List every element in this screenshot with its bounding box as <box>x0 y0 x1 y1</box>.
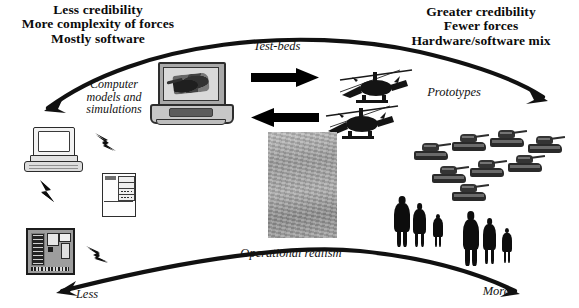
tank-icon <box>452 131 486 151</box>
tank-icon <box>452 181 486 201</box>
helicopter-icon <box>340 70 412 103</box>
server-cabinet-icon <box>102 173 136 217</box>
soldier-icon <box>460 211 482 265</box>
mainframe-icon <box>26 228 75 275</box>
label-test-beds: Test-beds <box>231 40 323 53</box>
lightning-bolt-icon <box>86 246 108 263</box>
page-title-left: Less credibility More complexity of forc… <box>0 3 196 46</box>
lightning-bolt-icon <box>40 180 54 202</box>
soldier-icon <box>481 218 498 263</box>
label-prototypes: Prototypes <box>410 86 498 99</box>
label-computer-models: Computer models and simulations <box>68 78 160 116</box>
tank-icon <box>508 152 542 172</box>
soldier-icon <box>432 214 444 246</box>
label-less: Less <box>58 288 116 301</box>
lightning-bolt-icon <box>95 133 116 151</box>
label-more: More <box>466 285 526 298</box>
soldier-icon <box>392 196 412 246</box>
tank-icon <box>470 157 504 177</box>
page-title-right: Greater credibility Fewer forces Hardwar… <box>383 5 579 48</box>
desktop-computer-icon <box>22 127 82 173</box>
laptop-icon <box>150 62 230 126</box>
tank-icon <box>432 163 466 183</box>
tank-icon <box>528 133 562 153</box>
soldier-icon <box>501 228 513 262</box>
battlefield-photo <box>268 132 337 238</box>
soldier-icon <box>411 203 428 246</box>
tank-icon <box>414 140 448 160</box>
label-operational-realism: Operational realism <box>221 247 361 260</box>
arrow-right-icon <box>251 68 319 87</box>
arrow-left-icon <box>251 108 319 127</box>
diagram-canvas: Less credibility More complexity of forc… <box>0 0 579 308</box>
tank-icon <box>490 127 524 147</box>
